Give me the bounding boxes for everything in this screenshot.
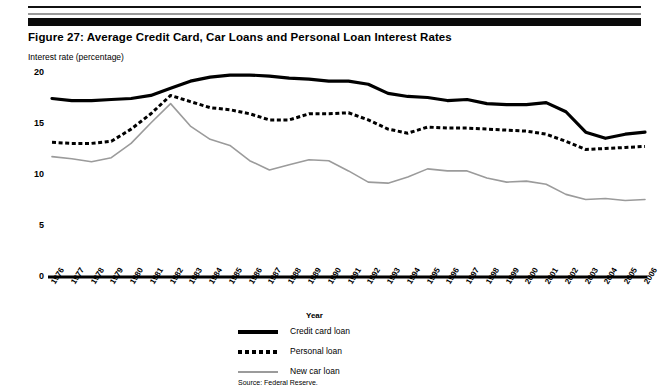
y-tick-label: 5 bbox=[22, 220, 44, 230]
y-tick-label: 10 bbox=[22, 169, 44, 179]
legend-label: New car loan bbox=[290, 366, 340, 376]
chart-plot-area: 0510152019761977197819791980198119821983… bbox=[0, 0, 652, 310]
legend-swatch-icon bbox=[238, 371, 278, 373]
series-line-new-car-loan bbox=[52, 104, 645, 201]
y-tick-label: 20 bbox=[22, 67, 44, 77]
legend-item: Credit card loan bbox=[238, 322, 468, 342]
series-line-credit-card-loan bbox=[52, 75, 645, 138]
chart-legend: Credit card loanPersonal loanNew car loa… bbox=[238, 322, 468, 382]
legend-label: Personal loan bbox=[290, 346, 342, 356]
legend-swatch-icon bbox=[238, 350, 278, 354]
x-axis-title: Year bbox=[306, 311, 323, 320]
chart-svg bbox=[0, 0, 652, 310]
series-line-personal-loan bbox=[52, 95, 645, 149]
legend-label: Credit card loan bbox=[290, 326, 350, 336]
y-tick-label: 15 bbox=[22, 118, 44, 128]
source-note: Source: Federal Reserve. bbox=[238, 379, 318, 386]
legend-item: Personal loan bbox=[238, 342, 468, 362]
y-tick-label: 0 bbox=[22, 271, 44, 281]
legend-swatch-icon bbox=[238, 330, 278, 334]
